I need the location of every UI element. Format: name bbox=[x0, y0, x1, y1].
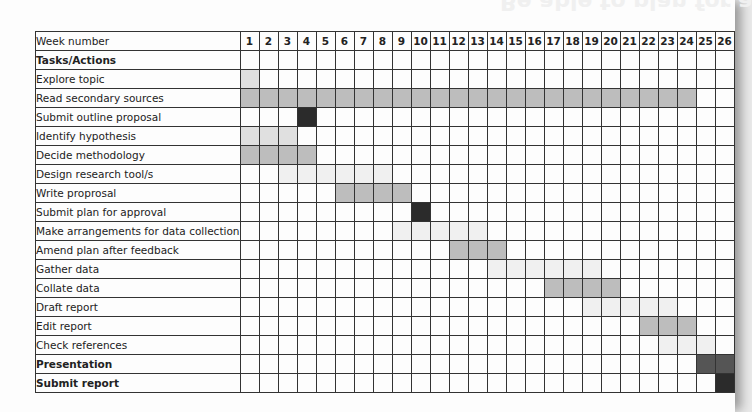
gantt-bar-cell bbox=[354, 89, 373, 108]
gantt-bar-cell bbox=[392, 89, 411, 108]
gantt-empty-cell bbox=[696, 89, 715, 108]
gantt-empty-cell bbox=[468, 203, 487, 222]
task-row: Identify hypothesis bbox=[36, 127, 735, 146]
gantt-empty-cell bbox=[354, 146, 373, 165]
gantt-empty-cell bbox=[696, 241, 715, 260]
gantt-empty-cell bbox=[639, 336, 658, 355]
gantt-bar-cell bbox=[506, 260, 525, 279]
gantt-empty-cell bbox=[658, 355, 677, 374]
gantt-empty-cell bbox=[620, 336, 639, 355]
gantt-empty-cell bbox=[297, 260, 316, 279]
gantt-empty-cell bbox=[525, 298, 544, 317]
gantt-empty-cell bbox=[392, 51, 411, 70]
gantt-empty-cell bbox=[677, 127, 696, 146]
gantt-empty-cell bbox=[696, 279, 715, 298]
gantt-bar-cell bbox=[335, 89, 354, 108]
gantt-empty-cell bbox=[696, 70, 715, 89]
gantt-empty-cell bbox=[601, 146, 620, 165]
gantt-empty-cell bbox=[715, 279, 734, 298]
gantt-empty-cell bbox=[240, 260, 259, 279]
gantt-empty-cell bbox=[411, 355, 430, 374]
gantt-bar-cell bbox=[582, 298, 601, 317]
gantt-empty-cell bbox=[468, 184, 487, 203]
gantt-empty-cell bbox=[487, 51, 506, 70]
gantt-empty-cell bbox=[582, 355, 601, 374]
gantt-empty-cell bbox=[601, 51, 620, 70]
gantt-empty-cell bbox=[620, 222, 639, 241]
gantt-bar-cell bbox=[696, 336, 715, 355]
gantt-empty-cell bbox=[240, 51, 259, 70]
gantt-empty-cell bbox=[582, 203, 601, 222]
gantt-bar-cell bbox=[411, 89, 430, 108]
task-row: Explore topic bbox=[36, 70, 735, 89]
gantt-empty-cell bbox=[715, 70, 734, 89]
gantt-empty-cell bbox=[715, 317, 734, 336]
gantt-empty-cell bbox=[639, 260, 658, 279]
gantt-empty-cell bbox=[639, 51, 658, 70]
gantt-empty-cell bbox=[259, 241, 278, 260]
gantt-empty-cell bbox=[715, 165, 734, 184]
gantt-empty-cell bbox=[411, 108, 430, 127]
gantt-empty-cell bbox=[449, 355, 468, 374]
week-24-header: 24 bbox=[677, 32, 696, 51]
task-label: Write proprosal bbox=[36, 184, 241, 203]
gantt-empty-cell bbox=[373, 355, 392, 374]
gantt-empty-cell bbox=[563, 184, 582, 203]
gantt-empty-cell bbox=[582, 222, 601, 241]
gantt-empty-cell bbox=[506, 184, 525, 203]
gantt-empty-cell bbox=[468, 70, 487, 89]
gantt-empty-cell bbox=[677, 260, 696, 279]
gantt-empty-cell bbox=[411, 279, 430, 298]
gantt-empty-cell bbox=[240, 374, 259, 393]
gantt-empty-cell bbox=[487, 279, 506, 298]
gantt-empty-cell bbox=[316, 51, 335, 70]
gantt-bar-cell bbox=[639, 317, 658, 336]
task-label: Decide methodology bbox=[36, 146, 241, 165]
gantt-empty-cell bbox=[354, 70, 373, 89]
gantt-empty-cell bbox=[430, 317, 449, 336]
week-14-header: 14 bbox=[487, 32, 506, 51]
gantt-bar-cell bbox=[373, 89, 392, 108]
gantt-empty-cell bbox=[601, 108, 620, 127]
gantt-empty-cell bbox=[240, 279, 259, 298]
gantt-empty-cell bbox=[601, 165, 620, 184]
gantt-empty-cell bbox=[563, 298, 582, 317]
gantt-empty-cell bbox=[601, 336, 620, 355]
gantt-empty-cell bbox=[316, 203, 335, 222]
gantt-empty-cell bbox=[335, 260, 354, 279]
gantt-empty-cell bbox=[506, 355, 525, 374]
gantt-empty-cell bbox=[696, 184, 715, 203]
gantt-bar-cell bbox=[278, 89, 297, 108]
week-3-header: 3 bbox=[278, 32, 297, 51]
gantt-empty-cell bbox=[658, 146, 677, 165]
gantt-empty-cell bbox=[487, 317, 506, 336]
gantt-empty-cell bbox=[506, 165, 525, 184]
gantt-empty-cell bbox=[487, 146, 506, 165]
gantt-bar-cell bbox=[468, 89, 487, 108]
gantt-empty-cell bbox=[430, 70, 449, 89]
gantt-empty-cell bbox=[506, 146, 525, 165]
gantt-empty-cell bbox=[506, 298, 525, 317]
gantt-bar-cell bbox=[297, 89, 316, 108]
gantt-empty-cell bbox=[487, 336, 506, 355]
gantt-empty-cell bbox=[563, 203, 582, 222]
gantt-bar-cell bbox=[620, 89, 639, 108]
gantt-empty-cell bbox=[449, 70, 468, 89]
gantt-empty-cell bbox=[430, 298, 449, 317]
gantt-empty-cell bbox=[487, 374, 506, 393]
task-row: Decide methodology bbox=[36, 146, 735, 165]
gantt-empty-cell bbox=[354, 203, 373, 222]
gantt-empty-cell bbox=[354, 127, 373, 146]
gantt-empty-cell bbox=[316, 184, 335, 203]
gantt-empty-cell bbox=[639, 70, 658, 89]
gantt-bar-cell bbox=[430, 89, 449, 108]
gantt-empty-cell bbox=[354, 222, 373, 241]
gantt-empty-cell bbox=[259, 355, 278, 374]
gantt-empty-cell bbox=[677, 241, 696, 260]
gantt-empty-cell bbox=[563, 165, 582, 184]
gantt-empty-cell bbox=[411, 146, 430, 165]
gantt-empty-cell bbox=[487, 127, 506, 146]
gantt-empty-cell bbox=[696, 146, 715, 165]
gantt-empty-cell bbox=[449, 317, 468, 336]
gantt-empty-cell bbox=[506, 336, 525, 355]
